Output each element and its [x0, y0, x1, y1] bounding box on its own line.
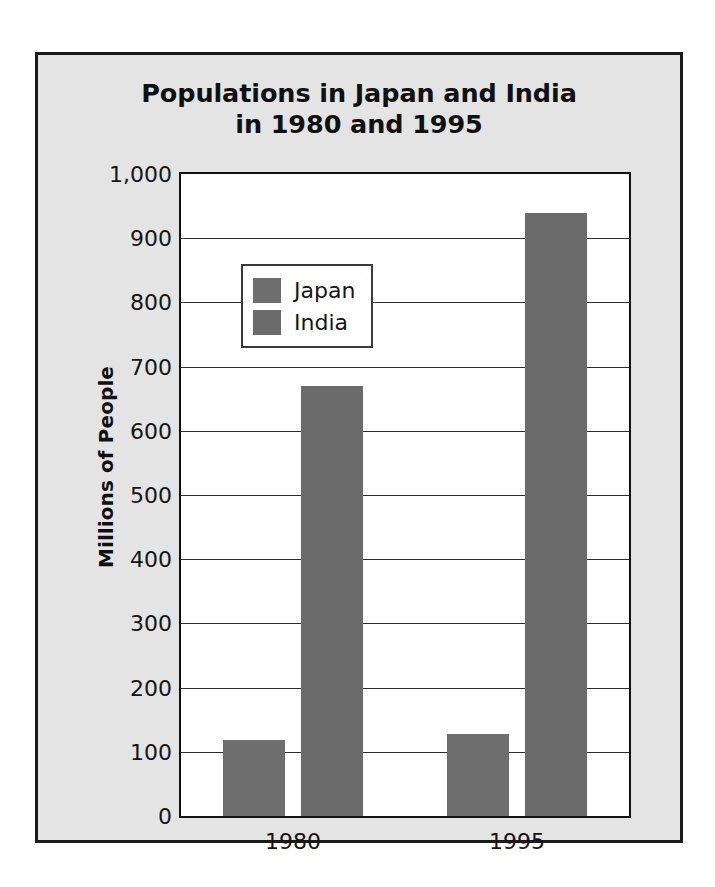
chart-title-line-1: Populations in Japan and India	[38, 78, 680, 109]
y-tick-label: 600	[130, 418, 172, 443]
bar-japan-1995	[447, 734, 509, 816]
bar-japan-1980	[223, 740, 285, 816]
y-tick-label: 500	[130, 483, 172, 508]
y-axis-title: Millions of People	[94, 337, 118, 597]
y-tick-label: 200	[130, 675, 172, 700]
y-tick-label: 900	[130, 226, 172, 251]
legend-item: India	[253, 306, 355, 338]
plot-area: 1,0009008007006005004003002001000 198019…	[179, 172, 631, 818]
bar-india-1980	[301, 386, 363, 816]
bar-india-1995	[525, 213, 587, 816]
x-tick-label: 1980	[265, 829, 321, 854]
y-tick-label: 0	[158, 804, 172, 829]
y-tick-label: 1,000	[109, 162, 172, 187]
chart-title: Populations in Japan and India in 1980 a…	[38, 78, 680, 140]
y-tick-label: 100	[130, 739, 172, 764]
x-tick-label: 1995	[489, 829, 545, 854]
legend-swatch-japan	[253, 278, 281, 303]
y-tick-label: 300	[130, 611, 172, 636]
y-tick-label: 400	[130, 547, 172, 572]
chart-figure-frame: Populations in Japan and India in 1980 a…	[35, 52, 683, 843]
chart-legend: JapanIndia	[241, 264, 373, 348]
y-tick-label: 800	[130, 290, 172, 315]
y-tick-label: 700	[130, 354, 172, 379]
legend-item: Japan	[253, 274, 355, 306]
chart-title-line-2: in 1980 and 1995	[38, 109, 680, 140]
legend-swatch-india	[253, 310, 281, 335]
legend-label-japan: Japan	[294, 278, 355, 303]
legend-label-india: India	[294, 310, 348, 335]
